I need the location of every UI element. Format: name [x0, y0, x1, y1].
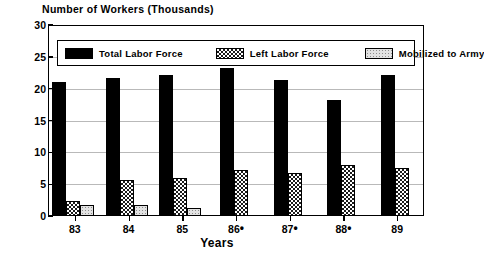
y-tick-label: 25 — [6, 52, 46, 63]
light-dotted-swatch — [365, 48, 393, 59]
y-tick-label: 30 — [6, 20, 46, 31]
x-tick-mark — [290, 216, 291, 221]
x-axis-title: Years — [0, 236, 434, 250]
y-tick-label: 0 — [6, 211, 46, 222]
legend-item-left-labor-force: Left Labor Force — [216, 48, 329, 59]
y-axis-title: Number of Workers (Thousands) — [42, 3, 214, 15]
checkered-swatch — [216, 48, 244, 59]
x-tick-mark — [343, 216, 344, 221]
bar — [381, 75, 395, 216]
chart-legend: Total Labor Force Left Labor Force Mobil… — [57, 40, 415, 66]
legend-label: Left Labor Force — [250, 48, 329, 59]
x-tick-mark — [236, 216, 237, 221]
y-tick-label: 15 — [6, 116, 46, 127]
x-tick-label: 87• — [265, 223, 315, 235]
y-tick-label: 20 — [6, 84, 46, 95]
legend-label: Total Labor Force — [99, 48, 183, 59]
legend-item-mobilized-to-army: Mobilized to Army — [365, 48, 484, 59]
y-tick-label: 10 — [6, 147, 46, 158]
legend-item-total-labor-force: Total Labor Force — [65, 48, 183, 59]
x-tick-label: 83 — [50, 223, 100, 235]
x-tick-label: 88• — [318, 223, 368, 235]
bar — [395, 168, 409, 216]
x-tick-label: 86• — [211, 223, 261, 235]
solid-black-swatch — [65, 48, 93, 59]
x-tick-mark — [182, 216, 183, 221]
x-tick-mark — [129, 216, 130, 221]
y-tick-label: 5 — [6, 179, 46, 190]
x-tick-label: 84 — [104, 223, 154, 235]
x-tick-mark — [75, 216, 76, 221]
x-tick-mark — [397, 216, 398, 221]
legend-label: Mobilized to Army — [399, 48, 484, 59]
x-tick-label: 89 — [372, 223, 422, 235]
x-tick-label: 85 — [157, 223, 207, 235]
